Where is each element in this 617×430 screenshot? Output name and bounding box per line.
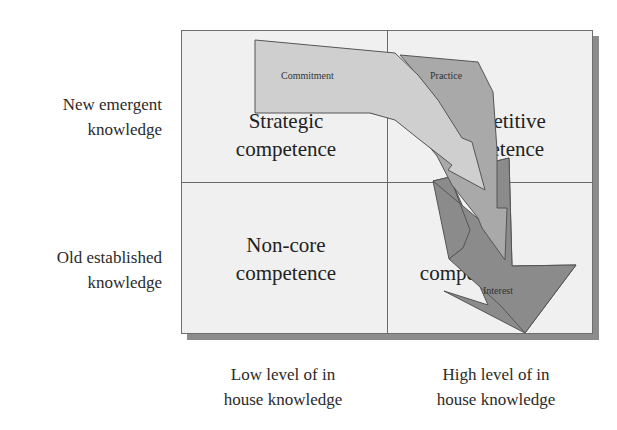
column-label-line2: house knowledge <box>183 387 383 412</box>
column-label-low-level: Low level of in house knowledge <box>183 362 383 412</box>
practice-label: Practice <box>430 70 463 81</box>
commitment-label: Commitment <box>281 70 334 81</box>
interest-label: Interest <box>483 285 513 296</box>
column-label-line2: house knowledge <box>396 387 596 412</box>
column-label-high-level: High level of in house knowledge <box>396 362 596 412</box>
column-label-line1: High level of in <box>396 362 596 387</box>
column-label-line1: Low level of in <box>183 362 383 387</box>
